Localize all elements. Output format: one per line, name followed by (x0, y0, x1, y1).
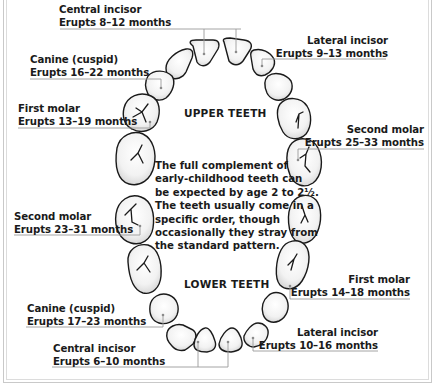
tooth-name: Central incisor (59, 3, 171, 16)
eruption-range: Erupts 6–10 months (53, 355, 165, 368)
label-lower-second-molar: Second molar Erupts 23–31 months (14, 210, 133, 236)
lower-left-lateral-incisor (167, 324, 196, 350)
upper-right-lateral-incisor (251, 49, 275, 75)
tooth-name: First molar (291, 273, 410, 286)
eruption-range: Erupts 8–12 months (59, 16, 171, 29)
upper-right-central-incisor (223, 38, 251, 65)
lower-right-canine (262, 293, 288, 323)
upper-teeth-heading: UPPER TEETH (184, 107, 267, 119)
tooth-name: Lateral incisor (259, 326, 378, 339)
eruption-range: Erupts 17–23 months (27, 315, 146, 328)
eruption-range: Erupts 25–33 months (305, 136, 424, 149)
label-lower-central-incisor: Central incisor Erupts 6–10 months (53, 342, 165, 368)
upper-right-canine (265, 74, 292, 101)
label-lower-canine: Canine (cuspid) Erupts 17–23 months (27, 302, 146, 328)
tooth-name: First molar (18, 102, 137, 115)
label-upper-first-molar: First molar Erupts 13–19 months (18, 102, 137, 128)
eruption-range: Erupts 14–18 months (291, 286, 410, 299)
eruption-range: Erupts 9–13 months (276, 47, 388, 60)
eruption-range: Erupts 16–22 months (30, 66, 149, 79)
tooth-name: Lateral incisor (276, 34, 388, 47)
eruption-range: Erupts 23–31 months (14, 223, 133, 236)
lower-left-canine (150, 294, 178, 323)
tooth-name: Canine (cuspid) (27, 302, 146, 315)
label-upper-lateral-incisor: Lateral incisor Erupts 9–13 months (276, 34, 388, 60)
lower-right-central-incisor (219, 328, 242, 352)
label-upper-canine: Canine (cuspid) Erupts 16–22 months (30, 53, 149, 79)
label-lower-lateral-incisor: Lateral incisor Erupts 10–16 months (259, 326, 378, 352)
tooth-name: Central incisor (53, 342, 165, 355)
eruption-range: Erupts 10–16 months (259, 339, 378, 352)
note-paragraph: The full complement of early-childhood t… (155, 159, 320, 253)
tooth-name: Second molar (14, 210, 133, 223)
label-upper-second-molar: Second molar Erupts 25–33 months (305, 123, 424, 149)
tooth-name: Second molar (305, 123, 424, 136)
eruption-range: Erupts 13–19 months (18, 115, 137, 128)
lower-teeth-heading: LOWER TEETH (184, 278, 269, 290)
label-lower-first-molar: First molar Erupts 14–18 months (291, 273, 410, 299)
tooth-name: Canine (cuspid) (30, 53, 149, 66)
upper-left-second-molar (116, 133, 155, 185)
lower-left-central-incisor (194, 328, 216, 352)
label-upper-central-incisor: Central incisor Erupts 8–12 months (59, 3, 171, 29)
